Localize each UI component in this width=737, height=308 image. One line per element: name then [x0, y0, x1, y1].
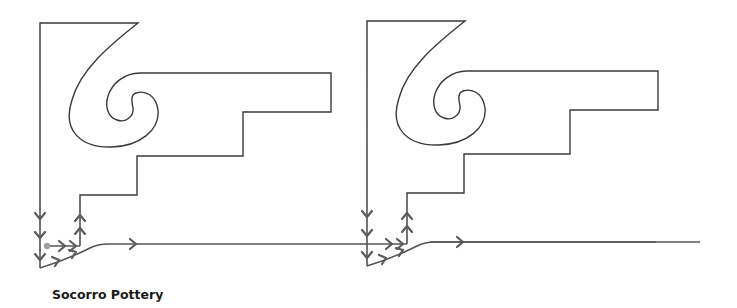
- socorro-pottery-diagram: [0, 0, 737, 308]
- figure-caption: Socorro Pottery: [52, 287, 163, 302]
- motif-2: [362, 21, 658, 266]
- flow-arrows-2: [362, 211, 463, 264]
- flow-arrows-1: [35, 213, 136, 266]
- motif-1: [35, 23, 331, 268]
- start-dot-icon: [44, 243, 50, 249]
